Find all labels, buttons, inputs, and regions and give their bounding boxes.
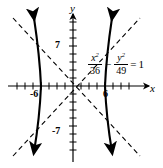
numerator-y-squared: y2 [115,52,127,64]
denominator-49: 49 [114,65,128,76]
hyperbola-left-branch [34,18,41,152]
equals-sign: = [130,59,136,70]
hyperbola-figure: x y -6 6 7 -7 x2 36 − y2 49 = 1 [0,0,163,168]
numerator-x-squared: x2 [89,52,101,64]
hyperbola-right-branch [105,18,112,152]
fraction-x-squared-over-36: x2 36 [88,52,102,76]
y-axis-label: y [70,3,75,14]
y-axis [69,14,77,162]
right-side-value: 1 [138,59,144,70]
fraction-y-squared-over-49: y2 49 [114,52,128,76]
equation-annotation: x2 36 − y2 49 = 1 [88,52,144,76]
graph-canvas [0,0,163,168]
y-tick-label-negative-seven: -7 [52,126,60,136]
denominator-36: 36 [88,65,102,76]
exponent-two: 2 [96,51,99,58]
x-axis-label: x [150,83,155,94]
x-tick-label-negative-six: -6 [30,89,38,99]
minus-operator: − [104,59,112,70]
y-tick-label-positive-seven: 7 [55,40,60,50]
exponent-two: 2 [122,51,125,58]
x-tick-label-positive-six: 6 [103,89,108,99]
